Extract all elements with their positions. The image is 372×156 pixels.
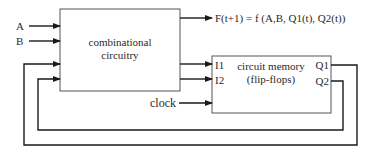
memory-output-q1: Q1: [316, 59, 329, 71]
input-b-label: B: [16, 35, 23, 47]
memory-input-i1: I1: [215, 59, 224, 71]
combinational-label-line2: circuitry: [101, 49, 139, 61]
sequential-circuit-diagram: combinational circuitry circuit memory (…: [0, 0, 372, 156]
memory-label-line1: circuit memory: [237, 60, 305, 72]
memory-input-i2: I2: [215, 74, 224, 86]
combinational-label-line1: combinational: [89, 36, 152, 48]
clock-label: clock: [150, 96, 176, 110]
input-a-label: A: [16, 20, 24, 32]
memory-label-line2: (flip-flops): [247, 73, 296, 86]
output-equation: F(t+1) = f (A,B, Q1(t), Q2(t)): [215, 12, 346, 25]
memory-output-q2: Q2: [316, 75, 329, 87]
